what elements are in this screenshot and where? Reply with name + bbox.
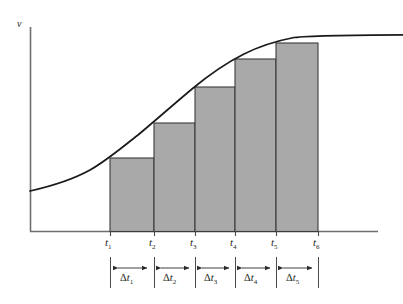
x-tick-label-t4: t4 — [230, 237, 237, 251]
interval-label-dt2: Δt2 — [163, 273, 176, 286]
x-tick-label-t6-sub: 6 — [316, 243, 320, 251]
interval-label-dt2-delta: Δ — [163, 272, 170, 283]
x-tick-label-t1: t1 — [105, 237, 112, 251]
interval-label-dt1-sub: 1 — [130, 278, 134, 286]
interval-label-dt4: Δt4 — [244, 273, 257, 286]
interval-label-dt3: Δt3 — [204, 273, 217, 286]
riemann-sum-figure — [0, 0, 403, 304]
x-tick-label-t2-sub: 2 — [152, 243, 156, 251]
bar-interval-5 — [276, 43, 318, 232]
x-tick-label-t2: t2 — [149, 237, 156, 251]
interval-label-dt5: Δt5 — [286, 273, 299, 286]
bar-interval-4 — [235, 59, 276, 232]
x-tick-label-t1-sub: 1 — [108, 243, 112, 251]
bar-interval-1 — [110, 158, 154, 232]
bar-interval-2 — [154, 123, 195, 232]
figure-canvas: v t1 t2 t3 t4 t5 t6 Δt1 Δt2 Δt3 Δt4 Δt5 — [0, 0, 403, 304]
x-tick-label-t6: t6 — [313, 237, 320, 251]
interval-label-dt1-delta: Δ — [120, 272, 127, 283]
y-axis-label: v — [17, 19, 21, 29]
x-tick-label-t5-sub: 5 — [274, 243, 278, 251]
interval-label-dt4-delta: Δ — [244, 272, 251, 283]
x-tick-label-t3: t3 — [190, 237, 197, 251]
interval-label-dt3-delta: Δ — [204, 272, 211, 283]
interval-label-dt1: Δt1 — [120, 273, 133, 286]
x-tick-label-t4-sub: 4 — [233, 243, 237, 251]
interval-label-dt5-delta: Δ — [286, 272, 293, 283]
interval-label-dt2-sub: 2 — [173, 278, 177, 286]
x-tick-label-t5: t5 — [271, 237, 278, 251]
interval-label-dt3-sub: 3 — [214, 278, 218, 286]
interval-label-dt5-sub: 5 — [296, 278, 300, 286]
interval-label-dt4-sub: 4 — [254, 278, 258, 286]
bar-interval-3 — [195, 87, 235, 232]
x-tick-label-t3-sub: 3 — [193, 243, 197, 251]
